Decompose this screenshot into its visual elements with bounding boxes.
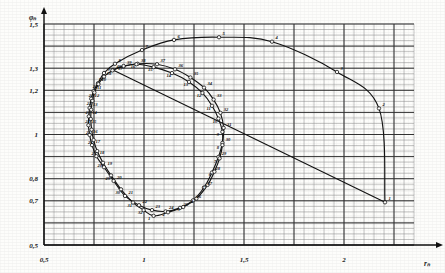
data-point-label: 21: [88, 93, 94, 98]
data-point-label: 1: [388, 196, 390, 201]
data-point-label: 34: [206, 81, 212, 86]
plot-svg: 1234567891011121314151617181920212223242…: [0, 0, 445, 273]
data-point-label: 20: [116, 175, 122, 180]
x-axis-label: rₙ: [424, 259, 431, 268]
data-point-label: 29: [104, 176, 110, 181]
data-point-marker: [222, 126, 225, 129]
data-point-label: 11: [97, 85, 101, 90]
data-point-label: 19: [107, 161, 112, 166]
data-point-marker: [173, 68, 176, 71]
data-point-label: 25: [182, 202, 188, 207]
data-point-label: 17: [95, 139, 100, 144]
data-point-label: 13: [93, 102, 98, 107]
data-point-label: 21: [127, 190, 133, 195]
data-point-label: 27: [206, 181, 212, 186]
x-tick-label: 0,5: [40, 256, 49, 264]
data-point-label: 15: [148, 67, 153, 72]
data-point-marker: [383, 201, 386, 204]
data-point-marker: [150, 208, 153, 211]
y-tick-label: 0,7: [29, 197, 38, 205]
y-tick-label: 0,5: [29, 242, 38, 250]
data-point-marker: [212, 98, 215, 101]
data-point-label: 20: [92, 84, 98, 89]
data-point-label: 15: [92, 119, 97, 124]
y-tick-label: 1: [35, 131, 39, 139]
data-point-marker: [221, 130, 224, 133]
data-point-marker: [270, 40, 273, 43]
data-point-marker: [172, 38, 175, 41]
data-point-label: 19: [98, 77, 103, 82]
y-tick-label: 1,3: [29, 65, 38, 73]
data-point-label: 23: [154, 204, 160, 209]
data-point-label: 18: [100, 150, 105, 155]
data-point-label: 32: [223, 107, 229, 112]
data-point-label: 27: [91, 151, 97, 156]
data-point-label: 32: [137, 210, 143, 215]
data-point-label: 12: [197, 93, 202, 98]
data-point-label: 28: [96, 163, 102, 168]
data-point-marker: [152, 214, 155, 217]
x-tick-label: 2: [341, 256, 346, 264]
data-point-label: 24: [168, 205, 174, 210]
data-point-label: 16: [93, 129, 98, 134]
data-point-marker: [217, 36, 220, 39]
data-point-label: 30: [225, 137, 231, 142]
data-point-marker: [140, 48, 143, 51]
y-axis-label: φₙ: [29, 13, 37, 22]
data-point-label: 26: [195, 194, 201, 199]
data-point-label: 22: [86, 101, 92, 106]
data-point-marker: [219, 111, 222, 114]
data-point-label: 36: [177, 63, 183, 68]
y-tick-label: 1,2: [29, 87, 38, 95]
data-point-label: 31: [126, 203, 132, 208]
data-point-label: 11: [206, 106, 210, 111]
data-point-label: 22: [141, 199, 147, 204]
data-point-label: 10: [213, 119, 218, 124]
data-point-marker: [210, 104, 213, 107]
data-point-label: 24: [84, 119, 90, 124]
data-point-label: 38: [140, 58, 146, 63]
data-point-marker: [137, 204, 140, 207]
data-point-marker: [155, 63, 158, 66]
data-point-marker: [189, 76, 192, 79]
data-point-marker: [112, 179, 115, 182]
data-point-marker: [123, 194, 126, 197]
data-point-label: 16: [131, 64, 136, 69]
data-point-label: 28: [214, 166, 220, 171]
data-point-label: 23: [85, 110, 91, 115]
data-point-marker: [202, 86, 205, 89]
data-point-marker: [102, 166, 105, 169]
data-point-label: 33: [216, 93, 222, 98]
data-point-label: 14: [166, 73, 171, 78]
data-point-label: 35: [193, 71, 199, 76]
data-point-marker: [335, 70, 338, 73]
data-point-marker: [218, 157, 221, 160]
data-point-label: 25: [85, 130, 91, 135]
data-point-marker: [221, 143, 224, 146]
x-tick-label: 1: [142, 256, 146, 264]
data-point-label: 12: [95, 93, 100, 98]
data-point-marker: [166, 211, 169, 214]
data-point-marker: [377, 107, 380, 110]
data-point-label: 17: [118, 66, 123, 71]
data-point-label: 31: [226, 122, 232, 127]
data-point-label: 30: [114, 190, 120, 195]
data-point-label: 14: [92, 110, 97, 115]
y-tick-label: 0,8: [29, 175, 38, 183]
data-point-label: 13: [183, 82, 188, 87]
figure-container: 1234567891011121314151617181920212223242…: [0, 0, 445, 273]
data-point-label: 18: [107, 71, 112, 76]
data-point-label: 29: [221, 151, 227, 156]
data-point-label: 1: [148, 216, 150, 221]
data-point-label: 37: [159, 58, 165, 63]
data-point-label: 26: [87, 140, 93, 145]
x-tick-label: 1,5: [240, 256, 249, 264]
data-point-marker: [102, 71, 105, 74]
